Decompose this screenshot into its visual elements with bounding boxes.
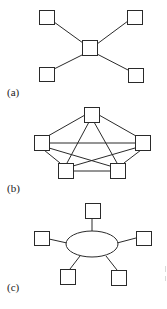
node-b-bottomleft (59, 164, 74, 179)
node-b-right (136, 136, 151, 151)
node-b-left (35, 136, 50, 151)
edge-c-right (117, 238, 136, 243)
panel-a-star-topology: (a) (7, 11, 144, 100)
edge-b-left-bottomleft (44, 150, 60, 163)
hub-node-a (83, 41, 98, 56)
shared-medium-ellipse (66, 231, 118, 257)
panel-b-label: (b) (7, 182, 20, 195)
node-a-bottomleft (40, 68, 55, 82)
node-b-top (85, 108, 100, 123)
edge-b-right-bottomright (124, 150, 141, 163)
node-c-top (86, 204, 101, 219)
node-a-topleft (40, 11, 55, 25)
edge-c-bottomleft (70, 256, 80, 269)
panel-b-mesh-topology: (b) (7, 108, 151, 196)
edge-b-top-right (99, 115, 136, 136)
edge-a-hub-topleft (54, 22, 83, 43)
node-a-bottomright (129, 69, 144, 83)
node-c-right (137, 232, 152, 246)
panel-c-label: (c) (7, 281, 20, 294)
panel-c-bus-topology: (c) (7, 204, 152, 295)
network-topology-figure: (a) (b) (c) (0, 0, 167, 309)
edge-c-bottomright (106, 256, 117, 270)
node-c-bottomleft (61, 270, 76, 285)
edge-a-hub-bottomleft (54, 54, 84, 69)
edge-c-left (49, 239, 67, 243)
node-b-bottomright (111, 164, 126, 179)
node-c-bottomright (112, 271, 127, 286)
edge-b-top-left (48, 115, 85, 136)
edge-a-hub-bottomright (97, 54, 128, 70)
node-a-topright (128, 11, 143, 25)
panel-a-label: (a) (7, 86, 20, 99)
edge-a-hub-topright (97, 21, 128, 44)
node-c-left (35, 232, 50, 246)
